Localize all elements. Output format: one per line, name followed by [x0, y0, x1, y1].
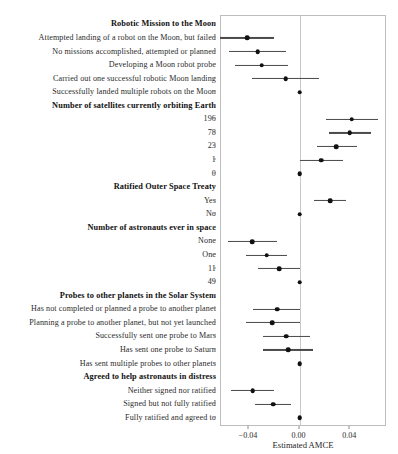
level-label: Successfully landed multiple robots on t…: [0, 87, 216, 96]
y-tick-mark: [213, 145, 216, 146]
estimate-point: [328, 198, 333, 203]
estimate-point: [250, 388, 255, 393]
estimate-point: [297, 280, 302, 285]
x-tick-label: −0.04: [239, 431, 258, 440]
estimate-marker: [221, 417, 385, 418]
y-tick-mark: [213, 36, 216, 37]
estimate-point: [259, 63, 264, 68]
estimate-marker: [221, 160, 385, 161]
level-label: 1: [0, 155, 216, 164]
estimate-marker: [221, 119, 385, 120]
x-tick-mark: [349, 426, 350, 429]
y-tick-mark: [213, 172, 216, 173]
x-axis-title: Estimated AMCE: [220, 440, 386, 450]
level-label: Fully ratified and agreed to: [0, 412, 216, 421]
level-label: Yes: [0, 195, 216, 204]
level-label: No missions accomplished, attempted or p…: [0, 46, 216, 55]
estimate-marker: [221, 65, 385, 66]
estimate-point: [286, 348, 291, 353]
y-tick-mark: [213, 267, 216, 268]
estimate-point: [277, 266, 282, 271]
estimate-marker: [221, 390, 385, 391]
y-tick-mark: [213, 376, 216, 377]
group-label: Robotic Mission to the Moon: [0, 19, 216, 28]
group-label: Number of astronauts ever in space: [0, 222, 216, 231]
estimate-marker: [221, 309, 385, 310]
group-label: Agreed to help astronauts in distress: [0, 372, 216, 381]
level-label: 78: [0, 127, 216, 136]
estimate-marker: [221, 282, 385, 283]
estimate-point: [349, 117, 354, 122]
estimate-point: [275, 307, 280, 312]
estimate-point: [245, 36, 250, 41]
estimate-point: [283, 76, 288, 81]
y-tick-mark: [213, 118, 216, 119]
estimate-marker: [221, 51, 385, 52]
y-tick-mark: [213, 77, 216, 78]
level-label: Has sent one probe to Saturn: [0, 344, 216, 353]
estimate-point: [271, 402, 276, 407]
y-tick-mark: [213, 50, 216, 51]
level-label: Carried out one successful robotic Moon …: [0, 73, 216, 82]
level-label: 196: [0, 114, 216, 123]
y-tick-mark: [213, 131, 216, 132]
y-tick-mark: [213, 23, 216, 24]
level-label: No: [0, 209, 216, 218]
y-tick-mark: [213, 321, 216, 322]
group-label: Probes to other planets in the Solar Sys…: [0, 290, 216, 299]
plot-panel: [220, 15, 386, 426]
estimate-point: [284, 334, 289, 339]
estimate-marker: [221, 268, 385, 269]
level-label: Neither signed nor ratified: [0, 385, 216, 394]
estimate-point: [297, 212, 302, 217]
estimate-marker: [221, 322, 385, 323]
estimate-point: [255, 49, 260, 54]
estimate-point: [297, 171, 302, 176]
y-tick-mark: [213, 362, 216, 363]
estimate-marker: [221, 146, 385, 147]
estimate-point: [297, 415, 302, 420]
y-tick-mark: [213, 199, 216, 200]
estimate-marker: [221, 173, 385, 174]
estimate-marker: [221, 214, 385, 215]
x-tick-label: 0.00: [292, 431, 306, 440]
y-tick-mark: [213, 281, 216, 282]
estimate-marker: [221, 92, 385, 93]
y-tick-mark: [213, 91, 216, 92]
y-tick-mark: [213, 335, 216, 336]
level-label: Has not completed or planned a probe to …: [0, 304, 216, 313]
y-tick-mark: [213, 389, 216, 390]
estimate-marker: [221, 132, 385, 133]
level-label: One: [0, 250, 216, 259]
estimate-point: [297, 361, 302, 366]
estimate-point: [347, 131, 352, 136]
estimate-point: [319, 158, 324, 163]
estimate-marker: [221, 363, 385, 364]
y-tick-mark: [213, 348, 216, 349]
estimate-marker: [221, 404, 385, 405]
estimate-marker: [221, 349, 385, 350]
level-label: Has sent multiple probes to other planet…: [0, 358, 216, 367]
level-label: 11: [0, 263, 216, 272]
estimate-marker: [221, 255, 385, 256]
estimate-marker: [221, 200, 385, 201]
y-tick-mark: [213, 240, 216, 241]
level-label: Signed but not fully ratified: [0, 399, 216, 408]
level-label: 0: [0, 168, 216, 177]
y-tick-mark: [213, 294, 216, 295]
estimate-marker: [221, 241, 385, 242]
y-tick-mark: [213, 254, 216, 255]
estimate-marker: [221, 37, 385, 38]
estimate-point: [264, 253, 269, 258]
y-tick-mark: [213, 213, 216, 214]
y-tick-mark: [213, 159, 216, 160]
estimate-point: [250, 239, 255, 244]
group-label: Ratified Outer Space Treaty: [0, 182, 216, 191]
estimate-marker: [221, 336, 385, 337]
level-label: 23: [0, 141, 216, 150]
y-tick-mark: [213, 64, 216, 65]
level-label: Successfully sent one probe to Mars: [0, 331, 216, 340]
y-axis-label-column: Robotic Mission to the MoonAttempted lan…: [0, 0, 216, 454]
x-tick-label: 0.04: [342, 431, 356, 440]
group-label: Number of satellites currently orbiting …: [0, 100, 216, 109]
